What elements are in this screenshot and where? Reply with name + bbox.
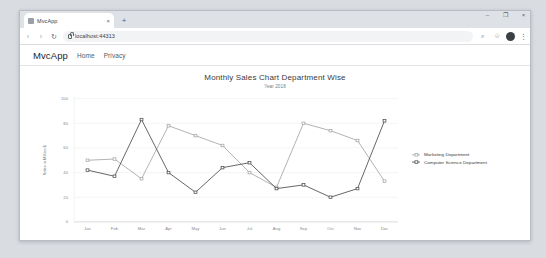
svg-text:Jun: Jun [219,226,226,231]
address-bar[interactable]: localhost:44313 [63,31,473,42]
tab-strip: MvcApp × + – ❐ × [20,11,530,28]
close-icon[interactable]: × [106,18,110,24]
svg-text:Aug: Aug [273,226,280,231]
avatar[interactable] [506,32,515,41]
svg-text:Mar: Mar [138,226,146,231]
svg-text:80: 80 [63,121,68,126]
url-text: localhost:44313 [75,33,115,39]
sales-line-chart: Monthly Sales Chart Department Wise Year… [20,66,530,240]
browser-toolbar: ‹ › ↻ localhost:44313 ⌕ ☆ ⋮ [20,28,530,45]
chart-series [86,118,386,198]
svg-text:Marketing Department: Marketing Department [424,153,470,158]
lock-icon [68,34,72,39]
brand-logo[interactable]: MvcApp [33,50,68,61]
y-axis-label: Sales in Million $ [42,145,47,175]
chart-container: Monthly Sales Chart Department Wise Year… [20,66,530,240]
svg-text:60: 60 [63,146,68,151]
maximize-icon[interactable]: ❐ [501,12,510,18]
x-axis-ticks: JanFebMarAprMayJunJulAugSepOctNovDec [84,226,388,231]
search-icon[interactable]: ⌕ [478,33,487,40]
reload-icon[interactable]: ↻ [50,33,58,40]
svg-text:Sales in Million $: Sales in Million $ [42,145,47,175]
svg-text:40: 40 [63,170,68,175]
minimize-icon[interactable]: – [483,12,492,18]
bookmark-star-icon[interactable]: ☆ [492,33,501,40]
svg-text:Computer Science Department: Computer Science Department [424,160,488,165]
svg-text:20: 20 [63,195,68,200]
browser-tab[interactable]: MvcApp × [24,13,114,28]
close-window-icon[interactable]: × [519,12,528,18]
svg-text:Jan: Jan [84,226,91,231]
new-tab-button[interactable]: + [117,14,131,28]
svg-text:Apr: Apr [165,226,172,231]
chart-legend: Marketing DepartmentComputer Science Dep… [412,153,488,165]
svg-text:Jul: Jul [247,226,252,231]
menu-icon[interactable]: ⋮ [520,33,526,40]
nav-item-privacy[interactable]: Privacy [104,52,126,59]
chart-plot-area: 020406080100 JanFebMarAprMayJunJulAugSep… [20,66,530,240]
svg-text:0: 0 [66,220,69,225]
svg-text:Dec: Dec [381,226,388,231]
svg-text:Oct: Oct [327,226,334,231]
site-navbar: MvcApp Home Privacy [20,45,530,66]
tab-title: MvcApp [37,18,103,24]
page-icon [28,18,34,24]
window-controls: – ❐ × [483,12,528,18]
svg-text:Feb: Feb [111,226,119,231]
y-axis-ticks: 020406080100 [61,96,69,224]
nav-item-home[interactable]: Home [77,52,95,59]
page-content: MvcApp Home Privacy Monthly Sales Chart … [20,45,530,240]
back-icon[interactable]: ‹ [24,33,32,40]
svg-text:Sep: Sep [300,226,308,231]
svg-text:Nov: Nov [354,226,361,231]
svg-text:May: May [192,226,200,231]
forward-icon[interactable]: › [37,33,45,40]
browser-window: MvcApp × + – ❐ × ‹ › ↻ localhost:44313 ⌕… [19,10,531,241]
svg-text:100: 100 [61,96,69,101]
